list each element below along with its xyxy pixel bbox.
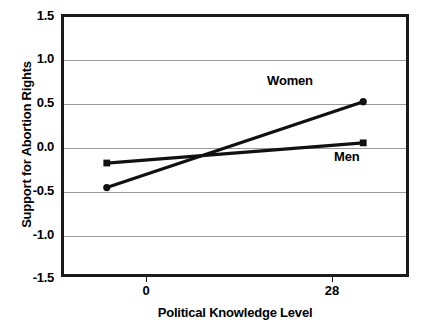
y-tick-label: -1.5: [0, 271, 54, 284]
y-tick-label: 1.0: [0, 52, 54, 65]
gridline: [64, 236, 406, 237]
x-tick-mark: [332, 277, 333, 282]
gridline: [64, 104, 406, 105]
y-tick-label: 0.5: [0, 96, 54, 109]
plot-area: [61, 14, 409, 277]
gridline: [64, 60, 406, 61]
y-tick-label: 0.0: [0, 140, 54, 153]
y-tick-label: 1.5: [0, 9, 54, 22]
y-tick-label: -1.0: [0, 228, 54, 241]
x-axis-title: Political Knowledge Level: [61, 305, 409, 320]
chart-figure: Support for Abortion Rights 1.5 1.0 0.5 …: [0, 0, 424, 325]
y-tick-label: -0.5: [0, 184, 54, 197]
x-tick-mark: [146, 277, 147, 282]
gridline: [64, 192, 406, 193]
series-label-men: Men: [334, 149, 359, 164]
x-tick-label: 28: [302, 284, 362, 297]
x-tick-label: 0: [116, 284, 176, 297]
series-label-women: Women: [267, 72, 313, 87]
